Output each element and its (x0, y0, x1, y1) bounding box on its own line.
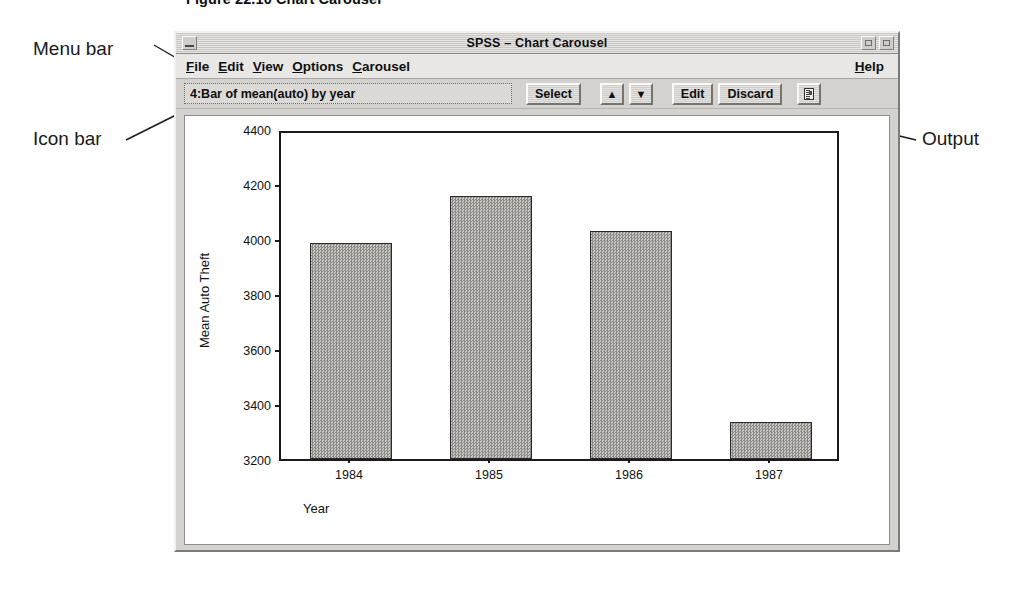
figure-caption: Figure 22.10 Chart Carousel (186, 0, 381, 7)
y-tick-label: 3800 (221, 289, 271, 303)
annotation-icon-bar: Icon bar (33, 128, 102, 150)
x-tick-label: 1985 (475, 468, 503, 482)
document-icon (804, 88, 814, 100)
close-button[interactable] (879, 36, 894, 50)
menu-item-file[interactable]: File (186, 59, 209, 74)
menu-mnemonic-options: O (292, 59, 303, 74)
output-button[interactable] (797, 83, 821, 105)
chart-title-field[interactable]: 4:Bar of mean(auto) by year (184, 83, 512, 104)
menu-label-edit: dit (227, 59, 244, 74)
menu-item-edit[interactable]: Edit (218, 59, 244, 74)
bar-series (281, 133, 837, 459)
x-tick-label: 1986 (615, 468, 643, 482)
menu-mnemonic-file: F (186, 59, 194, 74)
menu-item-options[interactable]: Options (292, 59, 343, 74)
x-tick-mark (348, 458, 350, 463)
previous-chart-button[interactable]: ▲ (600, 83, 624, 105)
y-tick-label: 3200 (221, 454, 271, 468)
window-title: SPSS – Chart Carousel (466, 36, 607, 50)
menu-item-help[interactable]: Help (855, 59, 884, 74)
y-tick-label: 4200 (221, 179, 271, 193)
plot-area (279, 131, 839, 461)
menu-label-carousel: arousel (362, 59, 410, 74)
window-titlebar[interactable]: SPSS – Chart Carousel (176, 33, 898, 54)
bar (310, 243, 391, 459)
x-tick-mark (628, 458, 630, 463)
discard-button[interactable]: Discard (718, 83, 782, 105)
spss-chart-carousel-window: SPSS – Chart Carousel File Edit View Opt… (174, 31, 900, 552)
next-chart-button[interactable]: ▼ (629, 83, 653, 105)
x-tick-mark (768, 458, 770, 463)
restore-button[interactable] (861, 36, 876, 50)
select-button[interactable]: Select (526, 83, 581, 105)
menu-label-options: ptions (303, 59, 344, 74)
menu-item-carousel[interactable]: Carousel (352, 59, 410, 74)
menu-mnemonic-view: V (253, 59, 262, 74)
menu-mnemonic-carousel: C (352, 59, 362, 74)
minimize-button[interactable] (182, 36, 197, 50)
y-tick-label: 3600 (221, 344, 271, 358)
menu-label-view: iew (262, 59, 284, 74)
bar (450, 196, 531, 459)
y-tick-label: 3400 (221, 399, 271, 413)
bar (590, 231, 671, 459)
bar (730, 422, 811, 459)
y-tick-label: 4000 (221, 234, 271, 248)
chart-panel: Mean Auto Theft 320034003600380040004200… (184, 115, 890, 545)
x-tick-mark (488, 458, 490, 463)
menu-label-file: ile (194, 59, 209, 74)
annotation-output: Output (922, 128, 979, 150)
x-tick-label: 1984 (335, 468, 363, 482)
menu-item-view[interactable]: View (253, 59, 284, 74)
menu-mnemonic-edit: E (218, 59, 227, 74)
edit-button[interactable]: Edit (672, 83, 714, 105)
y-tick-label: 4400 (221, 124, 271, 138)
menu-bar: File Edit View Options Carousel Help (176, 54, 898, 79)
menu-label-help: elp (864, 59, 884, 74)
x-tick-label: 1987 (755, 468, 783, 482)
y-axis-title: Mean Auto Theft (197, 253, 212, 348)
annotation-menu-bar: Menu bar (33, 38, 113, 60)
x-axis-title: Year (303, 501, 329, 516)
icon-bar: 4:Bar of mean(auto) by year Select ▲ ▼ E… (176, 79, 898, 109)
